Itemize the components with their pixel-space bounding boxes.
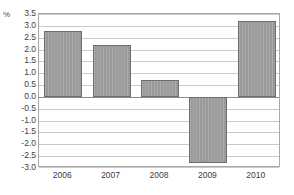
y-axis-tick-label: 1.5: [12, 56, 36, 64]
y-axis-tick-label: -0.5: [12, 104, 36, 112]
y-axis-tick-label: 2.0: [12, 45, 36, 53]
x-axis-tick-label: 2007: [86, 170, 134, 181]
y-axis-tick-label: -2.5: [12, 151, 36, 159]
y-axis-tick-label: 0.5: [12, 80, 36, 88]
y-axis-tick-label: -2.0: [12, 139, 36, 147]
y-axis-tick-label: 3.0: [12, 21, 36, 29]
x-axis-tick-label: 2008: [135, 170, 183, 181]
bar: [141, 80, 179, 97]
y-axis-tick-label: -3.0: [12, 163, 36, 171]
y-axis-unit-label: %: [3, 10, 10, 19]
bar-chart: % 3.53.02.52.01.51.00.50.0-0.5-1.0-1.5-2…: [0, 0, 294, 195]
bar: [238, 21, 276, 97]
plot-area: [38, 13, 280, 167]
y-axis-tick-label: 1.0: [12, 68, 36, 76]
gridline: [39, 167, 279, 168]
x-axis-tick-label: 2010: [232, 170, 280, 181]
bar: [44, 31, 82, 97]
y-axis: 3.53.02.52.01.51.00.50.0-0.5-1.0-1.5-2.0…: [12, 9, 36, 171]
x-axis: 20062007200820092010: [38, 170, 280, 186]
x-axis-tick-label: 2009: [183, 170, 231, 181]
y-axis-tick-label: 2.5: [12, 33, 36, 41]
bar: [93, 45, 131, 97]
y-axis-tick-label: 3.5: [12, 9, 36, 17]
bars-layer: [39, 14, 279, 166]
y-axis-tick-label: 0.0: [12, 92, 36, 100]
x-axis-tick-label: 2006: [38, 170, 86, 181]
y-axis-tick-label: -1.0: [12, 116, 36, 124]
y-axis-tick-label: -1.5: [12, 127, 36, 135]
bar: [189, 97, 227, 163]
